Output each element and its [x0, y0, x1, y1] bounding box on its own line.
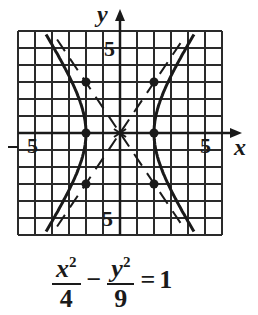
x-denominator: 4: [60, 285, 73, 313]
x-axis-label: x: [234, 134, 246, 161]
x-exponent: 2: [69, 254, 77, 270]
x-variable: x: [56, 254, 69, 283]
y-exponent: 2: [123, 254, 131, 270]
x-tick-label-neg5: 5: [27, 133, 38, 159]
equals-sign: =: [140, 265, 155, 295]
y-tick-label-neg5: 5: [102, 206, 113, 232]
y-denominator: 9: [114, 285, 127, 313]
equation: x2 4 − y2 9 = 1: [50, 248, 172, 313]
fraction-x: x2 4: [52, 248, 81, 313]
y-variable: y: [111, 254, 123, 283]
fraction-y: y2 9: [107, 248, 134, 313]
hyperbola-graph: [0, 0, 258, 245]
x-tick-label-5: 5: [200, 133, 211, 159]
minus-sign: −: [87, 265, 102, 295]
rhs-value: 1: [159, 265, 172, 295]
y-axis-label: y: [97, 1, 108, 28]
y-tick-label-5: 5: [104, 36, 115, 62]
